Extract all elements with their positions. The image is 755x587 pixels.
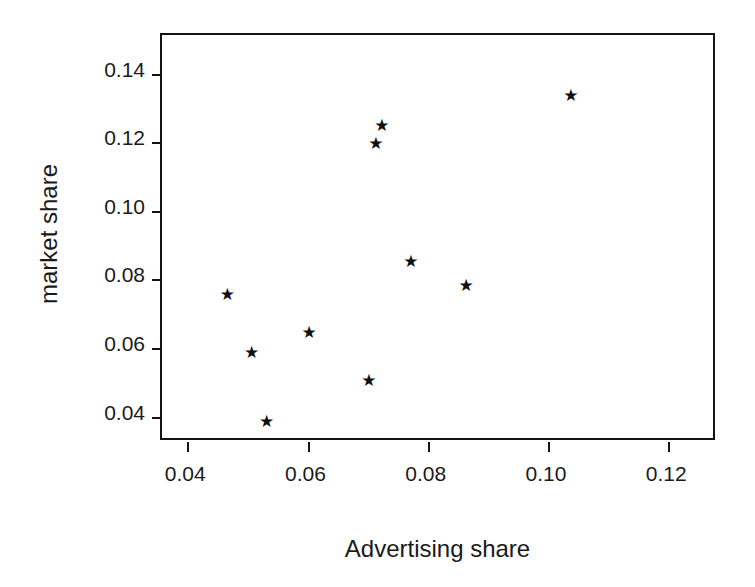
scatter-plot-figure: ★★★★★★★★★★ 0.040.060.080.100.120.14 0.04… <box>0 0 755 587</box>
data-point: ★ <box>403 255 416 268</box>
y-tick-label: 0.04 <box>104 401 145 425</box>
data-point: ★ <box>374 119 387 132</box>
data-point: ★ <box>259 415 272 428</box>
data-point: ★ <box>361 374 374 387</box>
plot-area: ★★★★★★★★★★ <box>160 33 715 440</box>
x-tick-mark <box>308 442 310 452</box>
y-tick-label: 0.12 <box>104 126 145 150</box>
y-tick-label: 0.06 <box>104 332 145 356</box>
x-axis-tick-labels: 0.040.060.080.100.12 <box>160 462 715 492</box>
y-tick-mark <box>152 142 162 144</box>
x-tick-label: 0.04 <box>165 462 206 486</box>
y-tick-mark <box>152 74 162 76</box>
y-tick-mark <box>152 211 162 213</box>
x-tick-label: 0.08 <box>405 462 446 486</box>
y-tick-mark <box>152 348 162 350</box>
x-tick-mark <box>428 442 430 452</box>
data-points-layer: ★★★★★★★★★★ <box>162 35 717 442</box>
y-tick-mark <box>152 417 162 419</box>
y-tick-label: 0.10 <box>104 195 145 219</box>
data-point: ★ <box>244 346 257 359</box>
y-tick-label: 0.08 <box>104 263 145 287</box>
y-tick-label: 0.14 <box>104 58 145 82</box>
x-tick-mark <box>668 442 670 452</box>
x-tick-mark <box>187 442 189 452</box>
x-axis-title: Advertising share <box>160 535 715 563</box>
data-point: ★ <box>220 288 233 301</box>
data-point: ★ <box>302 326 315 339</box>
y-tick-mark <box>152 279 162 281</box>
data-point: ★ <box>459 279 472 292</box>
x-tick-label: 0.12 <box>646 462 687 486</box>
data-point: ★ <box>563 89 576 102</box>
x-tick-label: 0.10 <box>526 462 567 486</box>
data-point: ★ <box>368 137 381 150</box>
y-axis-title: market share <box>35 24 63 444</box>
x-tick-label: 0.06 <box>285 462 326 486</box>
x-tick-mark <box>548 442 550 452</box>
